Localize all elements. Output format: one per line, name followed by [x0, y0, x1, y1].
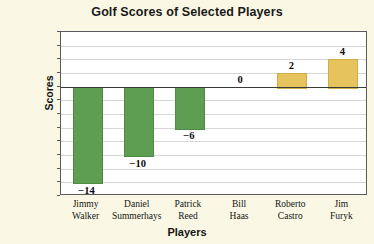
- bar: [328, 59, 358, 88]
- x-axis-tick-label-line: Daniel: [111, 199, 162, 211]
- zero-axis-line: [61, 87, 366, 88]
- gridline: [61, 100, 366, 101]
- x-axis-tick-label-line: Summerhays: [111, 211, 162, 223]
- bar-value-label: 0: [215, 74, 265, 85]
- x-axis-tick-label-line: Jim: [316, 199, 367, 211]
- x-axis-tick-label-line: Haas: [214, 211, 265, 223]
- x-axis-title: Players: [0, 226, 374, 238]
- gridline: [61, 114, 366, 115]
- x-axis-tick-label-line: Furyk: [316, 211, 367, 223]
- bar-value-label: −6: [164, 130, 214, 141]
- gridline: [61, 128, 366, 129]
- bar-value-label: 4: [317, 46, 367, 57]
- y-axis-tick-labels: 86420 (par)−2−4−6−8−10−12−14−16: [0, 0, 57, 244]
- x-axis-tick-label-line: Castro: [265, 211, 316, 223]
- golf-scores-bar-chart: Golf Scores of Selected Players Scores 8…: [0, 0, 374, 244]
- gridline: [61, 141, 366, 142]
- gridline: [61, 169, 366, 170]
- x-axis-tick-label-line: Jimmy: [60, 199, 111, 211]
- y-axis-tick-mark: [57, 195, 60, 196]
- bar-value-label: 2: [266, 60, 316, 71]
- x-axis-tick-label-line: Bill: [214, 199, 265, 211]
- x-axis-tick-label: JimmyWalker: [60, 199, 111, 222]
- x-axis-tick-label-line: Walker: [60, 211, 111, 223]
- x-axis-tick-label: RobertoCastro: [265, 199, 316, 222]
- x-axis-tick-label: BillHaas: [214, 199, 265, 222]
- x-axis-tick-label: DanielSummerhays: [111, 199, 162, 222]
- bar: [175, 87, 205, 130]
- bar-value-label: −10: [113, 158, 163, 169]
- x-axis-tick-label-line: Reed: [162, 211, 213, 223]
- bar: [73, 87, 103, 185]
- bar: [124, 87, 154, 157]
- gridline: [61, 73, 366, 74]
- x-axis-tick-label-line: Patrick: [162, 199, 213, 211]
- plot-area: −14−10−6024: [60, 31, 367, 195]
- bar-value-label: −14: [62, 185, 112, 196]
- gridline: [61, 59, 366, 60]
- gridline: [61, 155, 366, 156]
- x-axis-tick-label: PatrickReed: [162, 199, 213, 222]
- x-axis-tick-label-line: Roberto: [265, 199, 316, 211]
- x-axis-tick-label: JimFuryk: [316, 199, 367, 222]
- gridline: [61, 182, 366, 183]
